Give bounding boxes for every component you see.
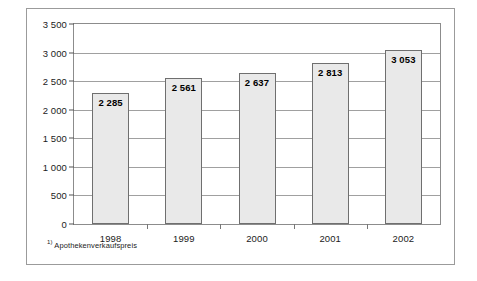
footnote-marker: 1)	[47, 239, 53, 245]
y-axis-tick-label: 1 500	[43, 133, 67, 144]
bar-value-label: 2 637	[240, 77, 275, 88]
y-axis-tick-label: 500	[51, 190, 67, 201]
y-axis-tick-mark	[69, 24, 74, 25]
y-axis-tick-mark	[69, 109, 74, 110]
y-axis-tick-label: 2 500	[43, 76, 67, 87]
footnote-text: Apothekenverkaufspreis	[54, 241, 137, 250]
x-axis-tick-label: 2001	[319, 233, 341, 244]
y-axis-tick-label: 2 000	[43, 104, 67, 115]
x-axis-tick-label: 2002	[393, 233, 415, 244]
y-axis-tick-mark	[69, 138, 74, 139]
bar: 2 561	[165, 78, 202, 224]
y-axis-tick-mark	[69, 81, 74, 82]
y-axis-tick-label: 3 500	[43, 19, 67, 30]
y-axis-tick-mark	[69, 224, 74, 225]
x-axis-tick-label: 2000	[246, 233, 268, 244]
x-axis-tick-mark	[220, 224, 221, 229]
bar-value-label: 2 285	[93, 97, 128, 108]
y-axis-tick-mark	[69, 195, 74, 196]
y-axis-tick-mark	[69, 52, 74, 53]
bar: 2 813	[312, 63, 349, 224]
bar: 2 637	[239, 73, 276, 224]
bar: 2 285	[92, 93, 129, 224]
x-axis-tick-mark	[294, 224, 295, 229]
plot-area: 05001 0001 5002 0002 5003 0003 5002 2851…	[73, 23, 441, 225]
bar-value-label: 2 561	[166, 82, 201, 93]
x-axis-tick-mark	[147, 224, 148, 229]
chart-footnote: 1) Apothekenverkaufspreis	[47, 239, 137, 250]
y-axis-tick-label: 1 000	[43, 161, 67, 172]
y-axis-tick-mark	[69, 166, 74, 167]
bar: 3 053	[385, 50, 422, 224]
bar-value-label: 3 053	[386, 54, 421, 65]
bar-value-label: 2 813	[313, 67, 348, 78]
y-axis-tick-label: 3 000	[43, 47, 67, 58]
x-axis-tick-label: 1999	[173, 233, 195, 244]
y-axis-tick-label: 0	[62, 219, 67, 230]
x-axis-tick-mark	[367, 224, 368, 229]
chart-figure: 05001 0001 5002 0002 5003 0003 5002 2851…	[26, 8, 455, 265]
